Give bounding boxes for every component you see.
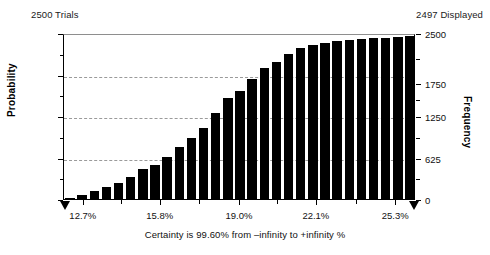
bar <box>393 37 402 199</box>
certainty-grabber-left[interactable] <box>60 201 70 210</box>
probability-frequency-chart: 2500 Trials 2497 Displayed Probability F… <box>0 0 490 255</box>
certainty-grabber-right[interactable] <box>409 201 419 210</box>
bar <box>90 191 99 199</box>
y-axis-title-frequency: Frequency <box>462 96 473 148</box>
x-axis-title: Certainty is 99.60% from –infinity to +i… <box>0 229 490 240</box>
bar <box>332 41 341 199</box>
displayed-count-label: 2497 Displayed <box>416 9 483 20</box>
y-tick-label-right: 1750 <box>425 78 446 89</box>
bar <box>150 165 159 199</box>
bar <box>175 147 184 199</box>
x-tick-mark <box>395 200 396 205</box>
plot-area <box>63 34 415 200</box>
x-tick-label: 22.1% <box>302 210 329 221</box>
y-tick-mark-minor-right <box>416 59 420 60</box>
x-tick-mark <box>83 200 84 205</box>
x-tick-label: 15.8% <box>146 210 173 221</box>
x-tick-mark-minor <box>277 200 278 204</box>
y-tick-mark-minor-right <box>416 138 420 139</box>
bar <box>114 183 123 199</box>
x-tick-mark <box>239 200 240 205</box>
bar <box>77 195 86 199</box>
x-tick-mark-minor <box>199 200 200 204</box>
y-tick-mark-minor-right <box>416 179 420 180</box>
bar <box>405 36 414 199</box>
y-tick-label-right: 625 <box>425 153 441 164</box>
bar <box>235 91 244 199</box>
x-tick-mark <box>160 200 161 205</box>
x-tick-label: 12.7% <box>69 210 96 221</box>
bar <box>345 40 354 199</box>
y-tick-label-right: 0 <box>425 195 430 206</box>
y-tick-mark-right <box>416 159 421 160</box>
x-tick-mark-minor <box>121 200 122 204</box>
bar <box>102 187 111 199</box>
bar <box>308 45 317 199</box>
trials-count-label: 2500 Trials <box>31 9 79 20</box>
x-tick-label: 25.3% <box>382 210 409 221</box>
y-tick-mark-right <box>416 84 421 85</box>
bar <box>320 43 329 199</box>
bar <box>211 113 220 199</box>
x-tick-mark-minor <box>356 200 357 204</box>
y-tick-mark-right <box>416 34 421 35</box>
bar-series <box>64 35 414 199</box>
x-tick-mark <box>316 200 317 205</box>
bar <box>381 38 390 199</box>
y-axis-title-probability: Probability <box>6 63 17 117</box>
bar <box>260 68 269 199</box>
y-tick-label-right: 1250 <box>425 112 446 123</box>
y-tick-mark-right <box>416 117 421 118</box>
bar <box>162 157 171 199</box>
bar <box>284 54 293 199</box>
bar <box>223 98 232 199</box>
y-tick-label-right: 2500 <box>425 29 446 40</box>
bar <box>369 38 378 199</box>
bar <box>65 198 74 199</box>
x-tick-label: 19.0% <box>226 210 253 221</box>
bar <box>357 39 366 199</box>
bar <box>247 79 256 199</box>
bar <box>126 177 135 199</box>
bar <box>138 169 147 199</box>
bar <box>296 48 305 199</box>
bar <box>187 138 196 199</box>
bar <box>272 62 281 199</box>
y-tick-mark-minor-right <box>416 100 420 101</box>
bar <box>199 128 208 199</box>
